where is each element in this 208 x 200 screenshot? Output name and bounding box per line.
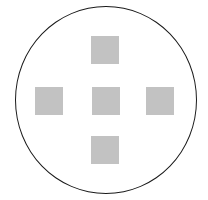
square-right: [146, 87, 174, 115]
square-left: [35, 87, 63, 115]
square-bottom: [91, 136, 119, 164]
square-top: [91, 36, 119, 64]
square-center: [92, 87, 120, 115]
